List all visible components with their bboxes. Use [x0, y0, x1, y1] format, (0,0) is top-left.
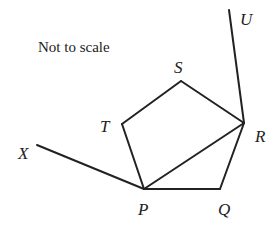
- label-q: Q: [218, 200, 230, 219]
- label-s: S: [174, 58, 183, 77]
- pentagon-diagram: Not to scale S T P Q R U X: [0, 0, 280, 227]
- label-r: R: [254, 127, 266, 146]
- diagonal-pr: [144, 123, 244, 189]
- label-u: U: [240, 10, 254, 29]
- not-to-scale-note: Not to scale: [38, 39, 110, 55]
- diagram-lines: [37, 10, 244, 189]
- segment-sr: [181, 81, 244, 123]
- segment-ts: [122, 81, 181, 124]
- segment-rq: [220, 123, 244, 189]
- label-p: P: [137, 200, 148, 219]
- label-x: X: [17, 144, 29, 163]
- label-t: T: [100, 117, 111, 136]
- ray-px: [37, 145, 144, 189]
- segment-pt: [122, 124, 144, 189]
